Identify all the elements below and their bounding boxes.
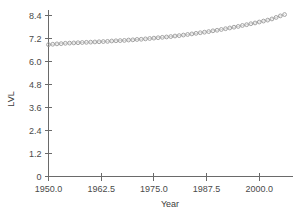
x-tick-label: 1950.0	[35, 184, 63, 194]
y-tick-label: 4.8	[29, 80, 42, 90]
x-axis-title: Year	[161, 199, 179, 209]
series-markers	[47, 13, 287, 47]
x-tick-label: 2000.0	[246, 184, 274, 194]
x-tick-label: 1962.5	[87, 184, 115, 194]
y-tick-label: 1.2	[29, 149, 42, 159]
y-axis-tick-labels: 01.22.43.64.86.07.28.4	[29, 11, 42, 182]
data-series-lvl	[47, 13, 287, 47]
y-tick-label: 3.6	[29, 103, 42, 113]
y-axis-title: LVL	[6, 91, 16, 106]
x-axis-tick-labels: 1950.01962.51975.01987.52000.0	[35, 184, 273, 194]
y-tick-label: 8.4	[29, 11, 42, 21]
series-line	[49, 15, 285, 45]
x-tick-label: 1987.5	[193, 184, 221, 194]
y-axis-group: 01.22.43.64.86.07.28.4 LVL	[6, 10, 52, 182]
lvl-vs-year-scatter-chart: 01.22.43.64.86.07.28.4 LVL 1950.01962.51…	[0, 0, 298, 215]
y-tick-label: 0	[36, 172, 41, 182]
y-tick-label: 7.2	[29, 34, 42, 44]
x-axis-group: 1950.01962.51975.01987.52000.0 Year	[35, 173, 293, 210]
chart-container: 01.22.43.64.86.07.28.4 LVL 1950.01962.51…	[0, 0, 298, 215]
x-tick-label: 1975.0	[140, 184, 168, 194]
y-tick-label: 2.4	[29, 126, 42, 136]
y-tick-label: 6.0	[29, 57, 42, 67]
